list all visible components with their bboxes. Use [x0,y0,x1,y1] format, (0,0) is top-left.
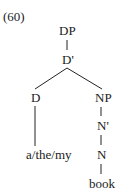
edge-dbar-d [35,68,67,89]
tree-branches [0,0,121,191]
edge-dbar-np [67,68,102,89]
